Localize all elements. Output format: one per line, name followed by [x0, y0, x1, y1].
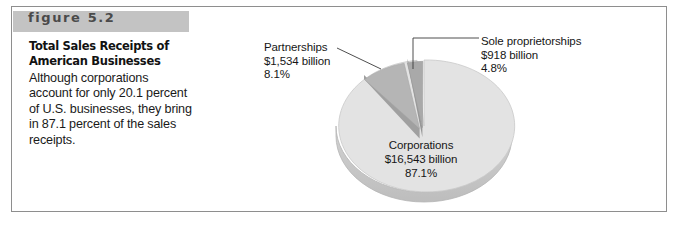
pie-chart-area: Partnerships $1,534 billion 8.1% Sole pr…	[198, 7, 666, 211]
figure-number-label: figure 5.2	[28, 10, 115, 25]
pie-label-corporations-name: Corporations	[339, 138, 503, 152]
pie-label-sole-proprietorships: Sole proprietorships $918 billion 4.8%	[481, 35, 581, 76]
leader-line-partnerships	[337, 48, 381, 69]
pie-label-partnerships: Partnerships $1,534 billion 8.1%	[264, 41, 330, 82]
pie-label-corporations-percent: 87.1%	[339, 166, 503, 180]
figure-description: Although corporations account for only 2…	[29, 71, 192, 148]
pie-label-sole-proprietorships-percent: 4.8%	[481, 62, 581, 76]
pie-label-partnerships-percent: 8.1%	[264, 68, 330, 82]
pie-label-partnerships-amount: $1,534 billion	[264, 55, 330, 69]
figure-container: figure 5.2 Total Sales Receipts of Ameri…	[11, 6, 667, 212]
pie-label-sole-proprietorships-name: Sole proprietorships	[481, 35, 581, 49]
pie-label-corporations: Corporations $16,543 billion 87.1%	[339, 138, 503, 181]
figure-title: Total Sales Receipts of American Busines…	[29, 39, 189, 68]
pie-label-sole-proprietorships-amount: $918 billion	[481, 49, 581, 63]
pie-label-corporations-amount: $16,543 billion	[339, 152, 503, 166]
pie-chart-graphic	[198, 7, 668, 213]
figure-caption-column: figure 5.2 Total Sales Receipts of Ameri…	[12, 7, 198, 213]
pie-label-partnerships-name: Partnerships	[264, 41, 330, 55]
